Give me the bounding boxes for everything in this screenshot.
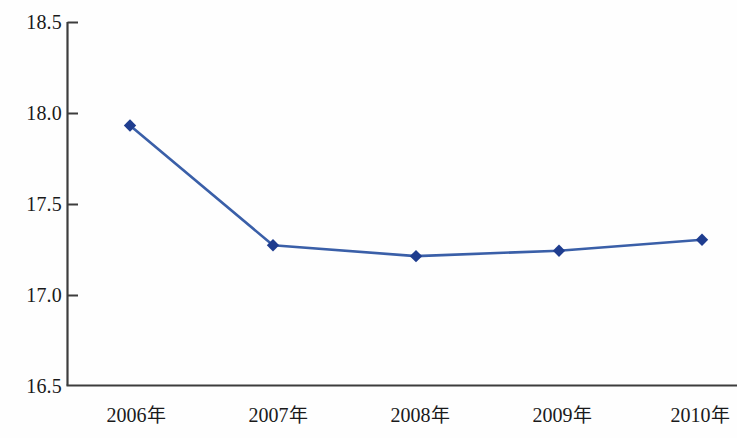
- series-markers: [124, 119, 708, 262]
- y-tick-label: 16.5: [4, 376, 62, 396]
- x-tick-label-year: 2010: [671, 404, 711, 426]
- y-tick-label: 17.5: [4, 194, 62, 214]
- chart-plot-area: [0, 0, 737, 438]
- series-line: [130, 125, 702, 256]
- x-tick-label-suffix: 年: [711, 404, 730, 426]
- y-tick-17-0: 17.0: [0, 285, 62, 305]
- x-tick-2007: 2007年: [249, 404, 308, 426]
- x-tick-label-suffix: 年: [289, 404, 308, 426]
- y-tick-label: 18.5: [4, 12, 62, 32]
- data-point-marker: [410, 250, 422, 262]
- y-tick-label: 18.0: [4, 103, 62, 123]
- y-tick-18-0: 18.0: [0, 103, 62, 123]
- x-tick-label-year: 2008: [391, 404, 431, 426]
- x-tick-label-year: 2009: [533, 404, 573, 426]
- x-tick-label-suffix: 年: [147, 404, 166, 426]
- line-chart: 18.5 18.0 17.5 17.0 16.5 2006年 2007年 200…: [0, 0, 737, 438]
- x-tick-2009: 2009年: [533, 404, 592, 426]
- y-tick-16-5: 16.5: [0, 376, 62, 396]
- x-tick-2010: 2010年: [671, 404, 730, 426]
- x-tick-label-year: 2006: [107, 404, 147, 426]
- data-point-marker: [696, 234, 708, 246]
- data-point-marker: [553, 244, 565, 256]
- x-tick-2006: 2006年: [107, 404, 166, 426]
- y-tick-label: 17.0: [4, 285, 62, 305]
- y-tick-18-5: 18.5: [0, 12, 62, 32]
- x-tick-label-suffix: 年: [573, 404, 592, 426]
- x-tick-2008: 2008年: [391, 404, 450, 426]
- x-tick-label-suffix: 年: [431, 404, 450, 426]
- y-tick-17-5: 17.5: [0, 194, 62, 214]
- x-tick-label-year: 2007: [249, 404, 289, 426]
